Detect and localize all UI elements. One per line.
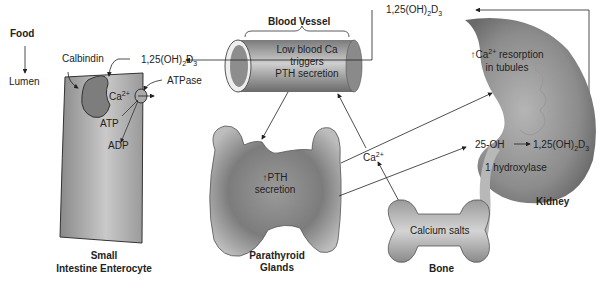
adp-label: ADP xyxy=(108,140,129,151)
parathyroid-title: Parathyroid Glands xyxy=(232,250,322,274)
kidney-title: Kidney xyxy=(536,196,569,207)
blood-vessel-text: Low blood Ca triggers PTH secretion xyxy=(262,44,352,80)
top-vitd-label: 1,25(OH)2D3 xyxy=(386,4,442,15)
pth-to-kidney-hydroxylase-arrow xyxy=(339,147,466,196)
parathyroid-text: ↑PTH secretion xyxy=(250,172,300,196)
kidney-vitd-label: 1,25(OH)2D3 xyxy=(533,139,589,150)
ca-ion-label: Ca2+ xyxy=(109,91,130,102)
ca-to-vessel-arrow xyxy=(338,94,366,148)
calbindin-protein xyxy=(82,76,110,118)
blood-vessel-lumen xyxy=(230,45,248,87)
atpase-label: ATPase xyxy=(167,75,202,86)
bone-inner-label: Calcium salts xyxy=(410,225,469,236)
enterocyte-vitd-label: 1,25(OH)2D3 xyxy=(141,54,197,65)
lumen-label: Lumen xyxy=(9,76,40,87)
enterocyte-title: SmallIntestine Enterocyte xyxy=(40,250,168,274)
hydroxylase-label: 1 hydroxylase xyxy=(485,162,547,173)
food-label: Food xyxy=(10,28,34,39)
blood-vessel-title: Blood Vessel xyxy=(268,16,330,27)
oh25-label: 25-OH xyxy=(475,139,504,150)
bone-title: Bone xyxy=(429,263,454,274)
calbindin-label: Calbindin xyxy=(62,53,104,64)
blood-vessel-brace xyxy=(245,26,349,37)
vessel-to-parathyroid-arrow xyxy=(262,92,288,139)
atpase-pointer xyxy=(144,80,162,90)
atp-label: ATP xyxy=(100,118,119,129)
calcium-release-label: Ca2+ xyxy=(363,152,384,163)
kidney-resorption-text: ↑Ca2+ resorption in tubules xyxy=(462,48,552,74)
